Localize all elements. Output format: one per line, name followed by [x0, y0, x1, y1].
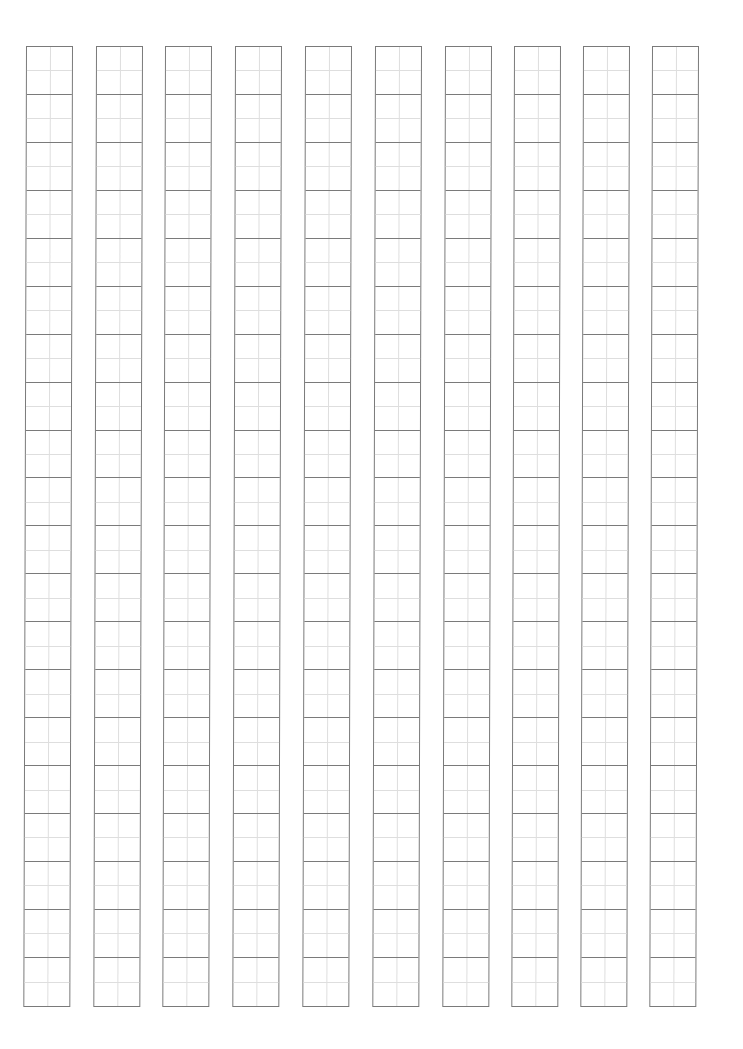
horizontal-guide-line — [304, 837, 349, 838]
horizontal-guide-line — [164, 646, 209, 647]
grid-cell — [583, 383, 628, 431]
grid-cell — [582, 622, 627, 670]
horizontal-guide-line — [236, 214, 281, 215]
grid-cell — [306, 95, 351, 143]
horizontal-guide-line — [236, 166, 281, 167]
horizontal-guide-line — [164, 885, 209, 886]
horizontal-guide-line — [304, 646, 349, 647]
horizontal-guide-line — [304, 790, 349, 791]
grid-cell — [582, 766, 627, 814]
horizontal-guide-line — [652, 262, 697, 263]
grid-cell — [305, 383, 350, 431]
horizontal-guide-line — [166, 70, 211, 71]
grid-cell — [235, 431, 280, 479]
horizontal-guide-line — [515, 214, 560, 215]
grid-cell — [27, 95, 72, 143]
grid-cell — [96, 287, 141, 335]
grid-cell — [652, 335, 697, 383]
horizontal-guide-line — [96, 358, 141, 359]
grid-cell — [233, 910, 278, 958]
horizontal-guide-line — [235, 406, 280, 407]
horizontal-guide-line — [376, 70, 421, 71]
horizontal-guide-line — [234, 742, 279, 743]
horizontal-guide-line — [374, 885, 419, 886]
grid-cell — [374, 766, 419, 814]
grid-cell — [166, 143, 211, 191]
grid-cell — [651, 622, 696, 670]
grid-cell — [583, 478, 628, 526]
grid-cell — [375, 239, 420, 287]
grid-column-8 — [511, 46, 561, 1007]
grid-cell — [235, 191, 280, 239]
grid-cell — [27, 143, 72, 191]
grid-cell — [26, 287, 71, 335]
grid-cell — [236, 95, 281, 143]
horizontal-guide-line — [306, 166, 351, 167]
grid-cell — [235, 335, 280, 383]
grid-column-10 — [649, 46, 699, 1007]
grid-cell — [165, 287, 210, 335]
grid-cell — [652, 383, 697, 431]
grid-cell — [374, 670, 419, 718]
grid-cell — [25, 862, 70, 910]
grid-cell — [234, 670, 279, 718]
horizontal-guide-line — [306, 214, 351, 215]
grid-cell — [235, 478, 280, 526]
horizontal-guide-line — [305, 502, 350, 503]
grid-cell — [164, 814, 209, 862]
grid-cell — [303, 958, 348, 1006]
grid-cell — [96, 335, 141, 383]
grid-cell — [444, 718, 489, 766]
grid-cell — [514, 478, 559, 526]
grid-cell — [236, 143, 281, 191]
horizontal-guide-line — [375, 310, 420, 311]
horizontal-guide-line — [95, 933, 140, 934]
horizontal-guide-line — [235, 262, 280, 263]
horizontal-guide-line — [25, 885, 70, 886]
horizontal-guide-line — [653, 214, 698, 215]
horizontal-guide-line — [582, 646, 627, 647]
horizontal-guide-line — [443, 982, 488, 983]
horizontal-guide-line — [375, 262, 420, 263]
horizontal-guide-line — [166, 118, 211, 119]
horizontal-guide-line — [513, 598, 558, 599]
grid-cell — [514, 431, 559, 479]
grid-cell — [376, 143, 421, 191]
horizontal-guide-line — [97, 70, 142, 71]
horizontal-guide-line — [25, 598, 70, 599]
horizontal-guide-line — [513, 742, 558, 743]
grid-cell — [445, 431, 490, 479]
horizontal-guide-line — [235, 502, 280, 503]
grid-cell — [444, 622, 489, 670]
horizontal-guide-line — [446, 118, 491, 119]
horizontal-guide-line — [514, 262, 559, 263]
horizontal-guide-line — [513, 790, 558, 791]
grid-cell — [304, 766, 349, 814]
horizontal-guide-line — [513, 646, 558, 647]
horizontal-guide-line — [95, 837, 140, 838]
horizontal-guide-line — [163, 982, 208, 983]
horizontal-guide-line — [651, 694, 696, 695]
grid-cell — [445, 335, 490, 383]
grid-cell — [306, 143, 351, 191]
grid-cell — [650, 910, 695, 958]
horizontal-guide-line — [582, 885, 627, 886]
horizontal-guide-line — [583, 550, 628, 551]
grid-cell — [651, 574, 696, 622]
horizontal-guide-line — [514, 550, 559, 551]
horizontal-guide-line — [166, 214, 211, 215]
horizontal-guide-line — [651, 837, 696, 838]
horizontal-guide-line — [445, 550, 490, 551]
horizontal-guide-line — [164, 837, 209, 838]
grid-cell — [446, 95, 491, 143]
horizontal-guide-line — [165, 406, 210, 407]
horizontal-guide-line — [27, 214, 72, 215]
horizontal-guide-line — [582, 933, 627, 934]
grid-cell — [304, 574, 349, 622]
horizontal-guide-line — [25, 742, 70, 743]
grid-cell — [96, 431, 141, 479]
horizontal-guide-line — [583, 406, 628, 407]
horizontal-guide-line — [96, 406, 141, 407]
grid-cell — [25, 814, 70, 862]
grid-cell — [653, 143, 698, 191]
